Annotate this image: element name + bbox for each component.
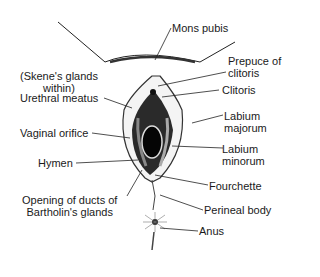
label-bartholin-glands: Opening of ducts of Bartholin's glands bbox=[22, 194, 117, 218]
vaginal-orifice-shape bbox=[142, 126, 162, 158]
label-fourchette: Fourchette bbox=[209, 180, 262, 192]
label-anus: Anus bbox=[199, 225, 224, 237]
label-prepuce-of-clitoris: Prepuce of clitoris bbox=[228, 55, 281, 79]
label-mons-pubis: Mons pubis bbox=[172, 22, 228, 34]
label-urethral-meatus: Urethral meatus bbox=[20, 92, 98, 104]
label-line: minorum bbox=[222, 155, 265, 167]
label-labium-majorum: Labium majorum bbox=[224, 110, 267, 134]
label-line: Labium bbox=[224, 110, 267, 122]
label-labium-minorum: Labium minorum bbox=[222, 143, 265, 167]
label-line: Opening of ducts of bbox=[22, 194, 117, 206]
label-perineal-body: Perineal body bbox=[204, 204, 271, 216]
label-line: Labium bbox=[222, 143, 265, 155]
label-line: Bartholin's glands bbox=[22, 206, 117, 218]
label-clitoris: Clitoris bbox=[222, 84, 256, 96]
label-line: Prepuce of bbox=[228, 55, 281, 67]
label-skene-glands: (Skene's glands within) bbox=[20, 70, 98, 94]
label-line: clitoris bbox=[228, 67, 281, 79]
label-vaginal-orifice: Vaginal orifice bbox=[20, 127, 88, 139]
label-line: (Skene's glands bbox=[20, 70, 98, 82]
label-line: majorum bbox=[224, 122, 267, 134]
label-hymen: Hymen bbox=[38, 157, 73, 169]
